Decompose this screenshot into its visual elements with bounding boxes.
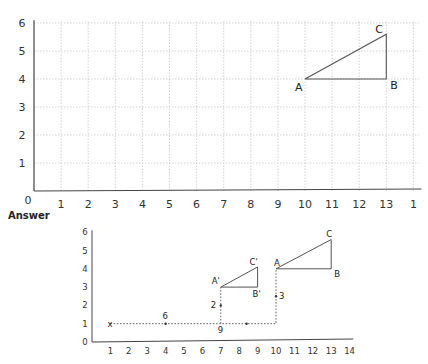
answer-vertex-c-prime: C' bbox=[250, 257, 258, 267]
answer-x-tick-label: 12 bbox=[307, 346, 318, 356]
path-annotation: 9 bbox=[218, 325, 223, 335]
answer-x-tick-label: 14 bbox=[344, 346, 355, 356]
x-tick-label: 10 bbox=[298, 198, 312, 211]
x-tick-label: 13 bbox=[379, 198, 393, 211]
answer-y-tick-label: 0 bbox=[82, 337, 87, 347]
answer-vertex-c: C bbox=[326, 229, 332, 239]
answer-x-tick-label: 6 bbox=[200, 346, 205, 356]
x-tick-label: 8 bbox=[247, 198, 254, 211]
x-tick-label: 3 bbox=[112, 198, 119, 211]
path-annotation: 6 bbox=[163, 311, 168, 321]
answer-x-tick-label: 5 bbox=[181, 346, 186, 356]
answer-x-tick-label: 2 bbox=[126, 346, 131, 356]
answer-vertex-a-prime: A' bbox=[212, 276, 220, 286]
answer-x-tick-label: 4 bbox=[163, 346, 168, 356]
x-tick-label: 1 bbox=[410, 198, 417, 211]
arrow-marker bbox=[245, 323, 247, 325]
y-tick-label: 5 bbox=[19, 45, 26, 58]
answer-vertex-b: B bbox=[334, 269, 340, 279]
path-annotation: 3 bbox=[279, 291, 284, 301]
triangle-abc bbox=[305, 34, 386, 79]
answer-triangle-abc bbox=[276, 240, 331, 269]
answer-vertex-b-prime: B' bbox=[253, 289, 261, 299]
vertex-label-b: B bbox=[390, 79, 398, 92]
y-tick-label: 2 bbox=[19, 129, 26, 142]
x-tick-label: 9 bbox=[274, 198, 281, 211]
answer-triangle-image bbox=[221, 267, 258, 287]
answer-heading: Answer bbox=[8, 210, 50, 221]
vertex-label-a: A bbox=[295, 81, 303, 94]
answer-x-tick-label: 11 bbox=[289, 346, 300, 356]
start-mark-x: x bbox=[107, 319, 112, 329]
answer-vertex-a: A bbox=[274, 258, 280, 268]
x-tick-label: 0 bbox=[25, 194, 32, 207]
answer-y-tick-label: 3 bbox=[82, 282, 87, 292]
answer-x-tick-label: 3 bbox=[144, 346, 149, 356]
answer-y-tick-label: 2 bbox=[82, 300, 87, 310]
y-tick-label: 1 bbox=[19, 157, 26, 170]
answer-x-tick-label: 9 bbox=[255, 346, 260, 356]
x-tick-label: 7 bbox=[220, 198, 227, 211]
arrow-marker bbox=[275, 295, 277, 297]
answer-x-tick-label: 13 bbox=[326, 346, 337, 356]
path-annotation: 2 bbox=[211, 300, 216, 310]
answer-x-tick-label: 8 bbox=[236, 346, 241, 356]
answer-x-tick-label: 10 bbox=[271, 346, 282, 356]
x-tick-label: 1 bbox=[58, 198, 65, 211]
x-tick-label: 4 bbox=[139, 198, 146, 211]
y-tick-label: 3 bbox=[19, 101, 26, 114]
y-tick-label: 6 bbox=[19, 17, 26, 30]
diagram-canvas: 0123456789101112131123456ABC123456789101… bbox=[0, 0, 428, 364]
x-axis bbox=[34, 189, 422, 191]
arrow-marker bbox=[164, 323, 166, 325]
translation-path bbox=[110, 269, 276, 324]
x-tick-label: 6 bbox=[193, 198, 200, 211]
y-tick-label: 4 bbox=[19, 73, 26, 86]
answer-y-tick-label: 1 bbox=[82, 319, 87, 329]
answer-x-tick-label: 7 bbox=[218, 346, 223, 356]
x-tick-label: 2 bbox=[85, 198, 92, 211]
vertex-label-c: C bbox=[375, 23, 383, 36]
answer-y-tick-label: 4 bbox=[82, 264, 87, 274]
x-tick-label: 5 bbox=[166, 198, 173, 211]
answer-y-tick-label: 5 bbox=[82, 246, 87, 256]
x-tick-label: 11 bbox=[325, 198, 339, 211]
answer-x-axis bbox=[92, 339, 353, 342]
arrow-marker bbox=[220, 304, 222, 306]
answer-y-tick-label: 6 bbox=[82, 227, 87, 237]
answer-x-tick-label: 1 bbox=[108, 346, 113, 356]
x-tick-label: 12 bbox=[352, 198, 366, 211]
